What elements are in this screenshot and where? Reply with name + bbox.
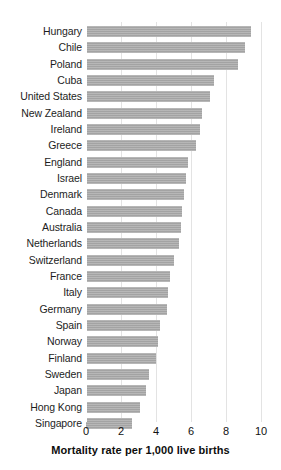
bar — [86, 222, 181, 233]
bar — [86, 287, 168, 298]
bar-row — [86, 402, 261, 413]
category-label: Japan — [0, 385, 82, 396]
bar-row — [86, 108, 261, 119]
category-label: New Zealand — [0, 108, 82, 119]
gridline-10 — [261, 22, 262, 422]
bar — [86, 369, 149, 380]
bar — [86, 59, 238, 70]
category-label: Israel — [0, 173, 82, 184]
x-tick-label: 0 — [83, 424, 89, 438]
x-axis-title: Mortality rate per 1,000 live births — [0, 444, 281, 456]
bar — [86, 336, 158, 347]
bar — [86, 173, 186, 184]
bar-row — [86, 369, 261, 380]
bar-row — [86, 206, 261, 217]
bar-row — [86, 353, 261, 364]
category-label: Poland — [0, 59, 82, 70]
category-label: Spain — [0, 320, 82, 331]
bar — [86, 271, 170, 282]
bar-row — [86, 189, 261, 200]
bar — [86, 75, 214, 86]
category-label: Australia — [0, 222, 82, 233]
category-label: Norway — [0, 336, 82, 347]
bar — [86, 157, 188, 168]
x-tick-label: 10 — [255, 424, 267, 438]
bar-row — [86, 157, 261, 168]
category-label: Hungary — [0, 26, 82, 37]
category-label: England — [0, 157, 82, 168]
bar — [86, 26, 251, 37]
bar — [86, 140, 196, 151]
category-label: Ireland — [0, 124, 82, 135]
bar-row — [86, 271, 261, 282]
bar — [86, 353, 156, 364]
bar — [86, 238, 179, 249]
bar-row — [86, 320, 261, 331]
x-tick-label: 6 — [188, 424, 194, 438]
bar-row — [86, 255, 261, 266]
bar-row — [86, 222, 261, 233]
bar — [86, 124, 200, 135]
bar-row — [86, 385, 261, 396]
bar-row — [86, 238, 261, 249]
bar — [86, 385, 146, 396]
bar — [86, 206, 182, 217]
bar — [86, 320, 160, 331]
bar-row — [86, 336, 261, 347]
x-tick-label: 8 — [223, 424, 229, 438]
bar-row — [86, 287, 261, 298]
y-axis-baseline — [86, 22, 87, 422]
plot-area — [86, 22, 261, 422]
bar — [86, 402, 140, 413]
category-label: Canada — [0, 206, 82, 217]
category-label: Hong Kong — [0, 402, 82, 413]
bar-row — [86, 59, 261, 70]
bar — [86, 255, 174, 266]
bar-row — [86, 304, 261, 315]
bar — [86, 304, 167, 315]
bar-row — [86, 140, 261, 151]
category-label: Italy — [0, 287, 82, 298]
bar-row — [86, 124, 261, 135]
bar-row — [86, 75, 261, 86]
bar-row — [86, 26, 261, 37]
bar-row — [86, 91, 261, 102]
category-label: Greece — [0, 140, 82, 151]
mortality-rate-bar-chart: HungaryChilePolandCubaUnited StatesNew Z… — [0, 0, 281, 470]
category-label: Switzerland — [0, 255, 82, 266]
bar-row — [86, 173, 261, 184]
bar — [86, 42, 245, 53]
category-label: France — [0, 271, 82, 282]
category-label: Germany — [0, 304, 82, 315]
bar — [86, 91, 210, 102]
x-tick-label: 4 — [153, 424, 159, 438]
category-label: United States — [0, 91, 82, 102]
category-label: Finland — [0, 353, 82, 364]
category-label: Netherlands — [0, 238, 82, 249]
category-axis-labels: HungaryChilePolandCubaUnited StatesNew Z… — [0, 22, 82, 422]
bar — [86, 108, 202, 119]
x-tick-label: 2 — [118, 424, 124, 438]
category-label: Denmark — [0, 189, 82, 200]
category-label: Chile — [0, 42, 82, 53]
category-label: Cuba — [0, 75, 82, 86]
x-axis-tick-labels: 0246810 — [0, 424, 281, 440]
bar — [86, 189, 184, 200]
category-label: Sweden — [0, 369, 82, 380]
bar-row — [86, 42, 261, 53]
